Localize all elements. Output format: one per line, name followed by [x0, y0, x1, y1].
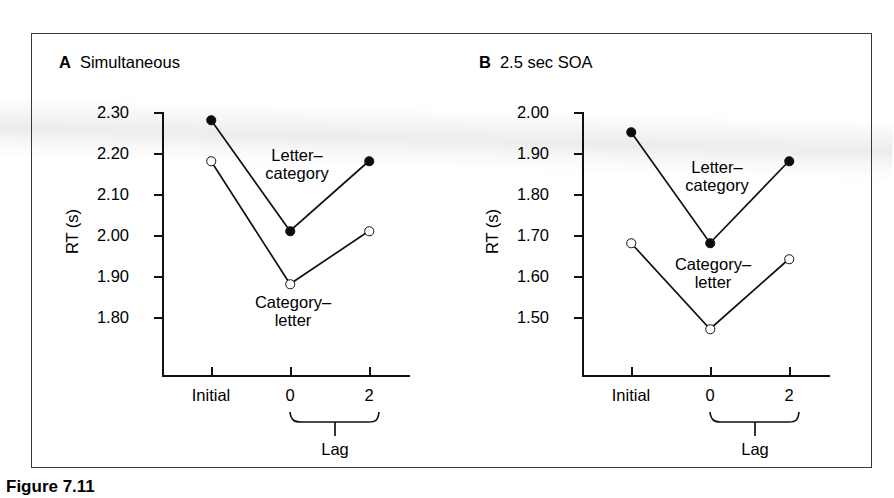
panel-b-point-category-letter — [705, 324, 715, 334]
panel-b-point-category-letter — [626, 238, 636, 248]
panel-a-point-letter-category — [364, 156, 374, 166]
panel-a-y-tick-label: 2.20 — [59, 144, 129, 163]
panel-a-y-tick-label: 2.00 — [59, 226, 129, 245]
panel-a-y-tick — [154, 153, 162, 155]
panel-a-x-tick-label: 0 — [285, 386, 294, 405]
series-label-line-2: category — [685, 176, 748, 194]
panel-b-point-category-letter — [784, 254, 794, 264]
panel-b-y-tick-label: 1.50 — [479, 308, 549, 327]
panel-b-point-letter-category — [626, 127, 636, 137]
panel-b-series-label-letter-category: Letter– category — [685, 158, 748, 195]
panel-b-y-tick — [574, 153, 582, 155]
panel-a-simultaneous: A Simultaneous RT (s) 2.30 2.20 2.10 2.0… — [32, 34, 452, 469]
panel-a-x-axis-title: Lag — [321, 440, 349, 459]
panel-a-x-tick-label: 2 — [364, 386, 373, 405]
panel-b-y-tick — [574, 317, 582, 319]
panel-a-point-letter-category — [285, 226, 295, 236]
panel-a-y-tick — [154, 194, 162, 196]
series-label-line-2: category — [265, 164, 328, 182]
panel-a-y-tick-label: 1.80 — [59, 308, 129, 327]
panel-a-y-tick-label: 1.90 — [59, 267, 129, 286]
series-label-line-1: Letter– — [685, 158, 748, 176]
figure-frame: A Simultaneous RT (s) 2.30 2.20 2.10 2.0… — [31, 33, 872, 468]
panel-b-soa: B 2.5 sec SOA RT (s) 2.00 1.90 1.80 1.70… — [452, 34, 872, 469]
panel-b-y-tick — [574, 112, 582, 114]
panel-b-point-letter-category — [784, 156, 794, 166]
panel-b-y-tick — [574, 194, 582, 196]
panel-a-title: Simultaneous — [80, 53, 180, 72]
series-label-line-2: letter — [675, 273, 751, 291]
panel-a-heading: A Simultaneous — [59, 53, 180, 72]
panel-a-x-tick-label: Initial — [192, 386, 231, 405]
panel-b-series-label-category-letter: Category– letter — [675, 255, 751, 292]
panel-b-y-tick — [574, 235, 582, 237]
panel-a-y-tick — [154, 112, 162, 114]
panel-b-y-tick-label: 1.70 — [479, 226, 549, 245]
panel-b-y-tick-label: 2.00 — [479, 103, 549, 122]
panel-b-y-tick — [574, 276, 582, 278]
panel-b-x-axis-title: Lag — [741, 440, 769, 459]
panel-a-y-tick-label: 2.30 — [59, 103, 129, 122]
series-label-line-2: letter — [255, 311, 331, 329]
panel-b-y-tick-label: 1.60 — [479, 267, 549, 286]
panel-b-x-tick-label: 2 — [784, 386, 793, 405]
series-label-line-1: Letter– — [265, 146, 328, 164]
panel-a-y-tick-label: 2.10 — [59, 185, 129, 204]
panel-a-point-category-letter — [206, 156, 216, 166]
panel-a-y-tick — [154, 276, 162, 278]
panel-a-plot-area: 2.30 2.20 2.10 2.00 1.90 1.80 Initial 0 … — [162, 112, 392, 377]
panel-a-series-label-letter-category: Letter– category — [265, 146, 328, 183]
figure-caption: Figure 7.11 — [6, 477, 95, 498]
panel-b-letter: B — [479, 53, 491, 72]
series-label-line-1: Category– — [675, 255, 751, 273]
panel-b-y-tick-label: 1.80 — [479, 185, 549, 204]
panel-b-x-tick-label: Initial — [612, 386, 651, 405]
panel-a-y-tick — [154, 235, 162, 237]
panel-b-title: 2.5 sec SOA — [500, 53, 593, 72]
panel-b-heading: B 2.5 sec SOA — [479, 53, 593, 72]
panel-a-series-label-category-letter: Category– letter — [255, 293, 331, 330]
panel-b-plot-area: 2.00 1.90 1.80 1.70 1.60 1.50 Initial 0 … — [582, 112, 812, 377]
panel-a-point-letter-category — [206, 115, 216, 125]
panel-a-point-category-letter — [285, 279, 295, 289]
panel-a-letter: A — [59, 53, 71, 72]
panel-a-y-tick — [154, 317, 162, 319]
panel-a-point-category-letter — [364, 226, 374, 236]
panel-b-y-tick-label: 1.90 — [479, 144, 549, 163]
series-label-line-1: Category– — [255, 293, 331, 311]
panel-b-point-letter-category — [705, 238, 715, 248]
panel-b-x-tick-label: 0 — [705, 386, 714, 405]
